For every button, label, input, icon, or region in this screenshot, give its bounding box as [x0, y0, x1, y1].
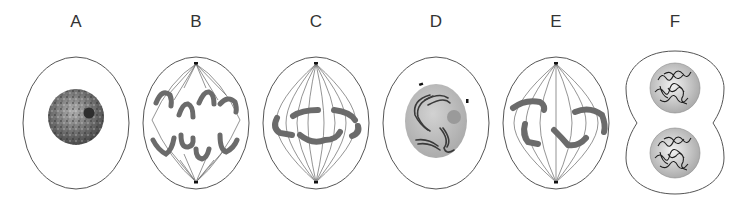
stage-d: D	[376, 0, 496, 214]
stage-e: E	[496, 0, 616, 214]
stage-label-e: E	[496, 12, 616, 32]
stage-label-a: A	[16, 12, 136, 32]
stage-b: B	[136, 0, 256, 214]
stage-label-f: F	[615, 12, 735, 32]
stage-label-d: D	[376, 12, 496, 32]
stage-label-b: B	[136, 12, 256, 32]
stage-f: F	[615, 0, 735, 214]
stage-label-c: C	[256, 12, 376, 32]
stage-c: C	[256, 0, 376, 214]
stage-a: A	[16, 0, 136, 214]
